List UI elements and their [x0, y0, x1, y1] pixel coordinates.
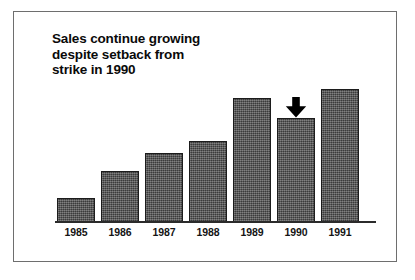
chart-title: Sales continue growing despite setback f…	[52, 31, 282, 78]
bar-1991	[321, 80, 359, 222]
x-tick-label-1987: 1987	[145, 226, 183, 238]
bar-1987	[145, 80, 183, 222]
x-tick-label-1989: 1989	[233, 226, 271, 238]
bar-rect-1985	[57, 198, 95, 222]
x-axis-line	[55, 221, 376, 223]
bar-rect-1990	[277, 118, 315, 222]
x-tick-label-1991: 1991	[321, 226, 359, 238]
x-tick-label-1988: 1988	[189, 226, 227, 238]
chart-figure: Sales continue growing despite setback f…	[0, 0, 415, 280]
bar-rect-1986	[101, 171, 139, 222]
bar-1985	[57, 80, 95, 222]
bar-1986	[101, 80, 139, 222]
x-tick-label-1990: 1990	[277, 226, 315, 238]
bar-rect-1988	[189, 141, 227, 222]
bar-rect-1987	[145, 153, 183, 222]
bar-1989	[233, 80, 271, 222]
bar-rect-1991	[321, 89, 359, 222]
bar-1988	[189, 80, 227, 222]
down-arrow-icon	[285, 97, 307, 118]
bar-series	[57, 80, 372, 222]
x-tick-label-1985: 1985	[57, 226, 95, 238]
x-tick-label-1986: 1986	[101, 226, 139, 238]
bar-rect-1989	[233, 98, 271, 222]
plot-area	[57, 80, 372, 222]
